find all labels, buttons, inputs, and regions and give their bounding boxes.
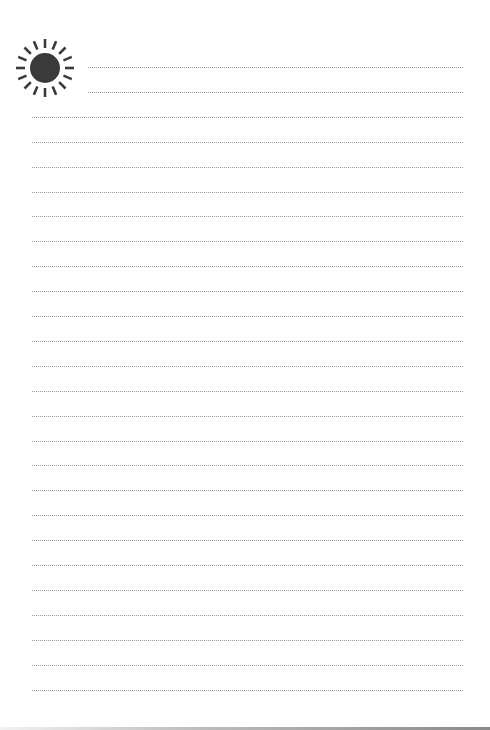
ruled-line — [32, 117, 463, 118]
ruled-line — [32, 665, 463, 666]
ruled-line — [32, 316, 463, 317]
ruled-line — [32, 615, 463, 616]
ruled-line — [32, 216, 463, 217]
ruled-line — [32, 640, 463, 641]
ruled-line — [32, 441, 463, 442]
ruled-line — [32, 565, 463, 566]
ruled-line — [32, 192, 463, 193]
ruled-line — [32, 167, 463, 168]
ruled-line — [32, 540, 463, 541]
ruled-line — [32, 291, 463, 292]
ruled-line — [32, 416, 463, 417]
sun-icon — [14, 37, 76, 99]
ruled-line — [88, 92, 463, 93]
ruled-line — [32, 341, 463, 342]
ruled-line — [32, 142, 463, 143]
ruled-line — [32, 690, 463, 691]
ruled-line — [32, 590, 463, 591]
ruled-line — [32, 490, 463, 491]
ruled-line — [32, 266, 463, 267]
ruled-line — [88, 67, 463, 68]
ruled-line — [32, 241, 463, 242]
ruled-line — [32, 391, 463, 392]
ruled-line — [32, 465, 463, 466]
ruled-line — [32, 515, 463, 516]
ruled-line — [32, 366, 463, 367]
